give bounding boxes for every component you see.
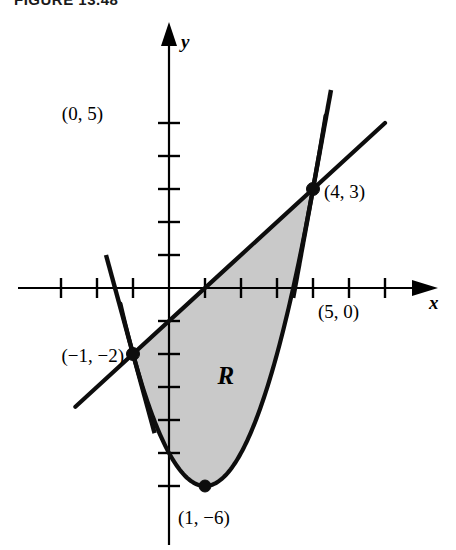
y-axis-arrow-icon xyxy=(161,22,177,46)
point-marker-minus1-minus2 xyxy=(127,348,140,361)
x-axis-label: x xyxy=(428,292,439,313)
label-vertex-1-minus6: (1, −6) xyxy=(178,507,230,529)
region-label-R: R xyxy=(217,362,235,389)
label-point-4-3: (4, 3) xyxy=(324,181,365,203)
y-axis-label: y xyxy=(179,31,190,52)
label-y-intercept: (0, 5) xyxy=(62,103,103,125)
shaded-region-R xyxy=(133,189,313,486)
coordinate-plot: x y (0, 5) (4, 3) (5, 0) (−1, −2) (1, −6… xyxy=(0,0,456,550)
label-x-intercept: (5, 0) xyxy=(318,301,359,323)
label-point-minus1-minus2: (−1, −2) xyxy=(61,345,124,367)
point-marker-1-minus6 xyxy=(199,480,211,492)
point-marker-4-3 xyxy=(307,183,320,196)
figure-container: FIGURE 13.48 x y xyxy=(0,0,456,550)
